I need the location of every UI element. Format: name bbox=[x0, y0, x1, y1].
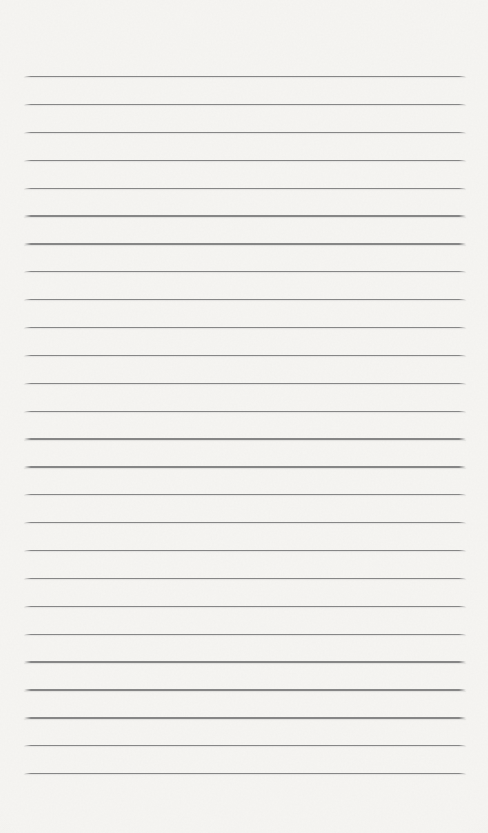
paper-texture bbox=[0, 0, 488, 833]
ruled-line bbox=[24, 383, 466, 384]
ruled-line bbox=[24, 494, 466, 495]
ruled-line bbox=[24, 438, 466, 439]
ruled-line bbox=[24, 717, 466, 718]
scan-vignette bbox=[0, 0, 488, 833]
ruled-line bbox=[24, 773, 466, 774]
ruled-line bbox=[24, 689, 466, 690]
ruled-line bbox=[24, 160, 466, 161]
ruled-line bbox=[24, 299, 466, 300]
ruled-line bbox=[24, 104, 466, 105]
ruled-line bbox=[24, 522, 466, 523]
ruled-line bbox=[24, 76, 466, 77]
ruled-line bbox=[24, 634, 466, 635]
ruled-line bbox=[24, 550, 466, 551]
ruled-line bbox=[24, 188, 466, 189]
ruled-line bbox=[24, 243, 466, 244]
ruled-line bbox=[24, 606, 466, 607]
notebook-page bbox=[0, 0, 488, 833]
ruled-line bbox=[24, 661, 466, 662]
ruled-line bbox=[24, 466, 466, 467]
ruled-line bbox=[24, 578, 466, 579]
ruled-line bbox=[24, 355, 466, 356]
ruled-line bbox=[24, 411, 466, 412]
ruled-line bbox=[24, 271, 466, 272]
ruled-line bbox=[24, 745, 466, 746]
ruled-line bbox=[24, 215, 466, 216]
ruled-line bbox=[24, 132, 466, 133]
ruled-line bbox=[24, 327, 466, 328]
